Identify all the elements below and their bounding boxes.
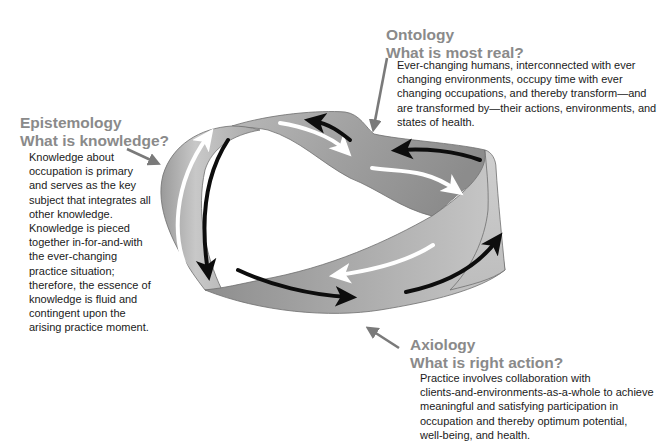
ontology-heading: Ontology What is most real? <box>386 26 524 62</box>
text-line: other knowledge. <box>29 207 159 221</box>
epistemology-description: Knowledge about occupation is primary an… <box>29 150 159 335</box>
text-line: Knowledge about <box>29 150 159 164</box>
text-line: knowledge is fluid and <box>29 292 159 306</box>
text-line: Practice involves collaboration with <box>420 371 662 385</box>
epistemology-question: What is knowledge? <box>20 132 169 150</box>
text-line: Ever-changing humans, interconnected wit… <box>397 58 662 72</box>
text-line: occupation is primary <box>29 164 159 178</box>
epistemology-title: Epistemology <box>20 114 169 132</box>
text-line: occupation and thereby optimum potential… <box>420 414 662 428</box>
epistemology-heading: Epistemology What is knowledge? <box>20 114 169 150</box>
ontology-description: Ever-changing humans, interconnected wit… <box>397 58 662 129</box>
axiology-title: Axiology <box>410 336 563 354</box>
ribbon-left-band <box>161 126 260 290</box>
text-line: practice situation; <box>29 264 159 278</box>
text-line: subject that integrates all <box>29 193 159 207</box>
text-line: together in-for-and-with <box>29 235 159 249</box>
axiology-pointer-arrow <box>371 330 399 348</box>
text-line: changing environments, occupy time with … <box>397 72 662 86</box>
text-line: well-being, and health. <box>420 428 662 442</box>
text-line: and serves as the key <box>29 178 159 192</box>
axiology-description: Practice involves collaboration with cli… <box>420 371 662 442</box>
text-line: the ever-changing <box>29 249 159 263</box>
text-line: states of health. <box>397 115 662 129</box>
ontology-title: Ontology <box>386 26 524 44</box>
text-line: therefore, the essence of <box>29 278 159 292</box>
ontology-pointer-arrow <box>374 58 387 126</box>
text-line: changing occupations, and thereby transf… <box>397 86 662 100</box>
text-line: meaningful and satisfying participation … <box>420 399 662 413</box>
text-line: Knowledge is pieced <box>29 221 159 235</box>
text-line: contingent upon the <box>29 306 159 320</box>
axiology-heading: Axiology What is right action? <box>410 336 563 372</box>
text-line: are transformed by—their actions, enviro… <box>397 101 662 115</box>
text-line: clients-and-environments-as-a-whole to a… <box>420 385 662 399</box>
axiology-question: What is right action? <box>410 354 563 372</box>
text-line: arising practice moment. <box>29 320 159 334</box>
